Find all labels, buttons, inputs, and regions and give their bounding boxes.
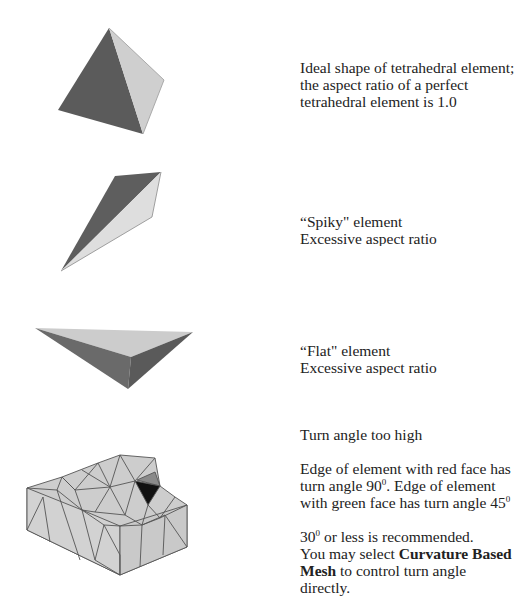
flat-element-figure [35,328,193,389]
rec-text: or less is recommended. [320,528,474,545]
flat-subtitle: Excessive aspect ratio [300,359,515,375]
spiky-element-figure [61,172,161,271]
ideal-caption: Ideal shape of tetrahedral element; the … [300,59,515,117]
turn-recommendation: 300 or less is recommended.You may selec… [300,528,515,596]
spiky-caption: “Spiky" element Excessive aspect ratio [300,213,515,246]
spiky-subtitle: Excessive aspect ratio [300,230,515,246]
flat-title: “Flat" element [300,342,515,359]
turn-title: Turn angle too high [300,426,515,443]
degree-sup: 0 [506,494,511,504]
ideal-caption-text: Ideal shape of tetrahedral element; the … [300,59,515,110]
spiky-title: “Spiky" element [300,213,515,230]
turn-description: Edge of element with red face has turn a… [300,460,515,511]
ideal-tetrahedron-figure [58,28,164,134]
hint-pre: You may select [300,545,399,562]
rec-num: 30 [300,528,316,545]
mesh-block-figure [27,455,187,575]
turn-angle-caption: Turn angle too high Edge of element with… [300,426,515,596]
flat-caption: “Flat" element Excessive aspect ratio [300,342,515,375]
